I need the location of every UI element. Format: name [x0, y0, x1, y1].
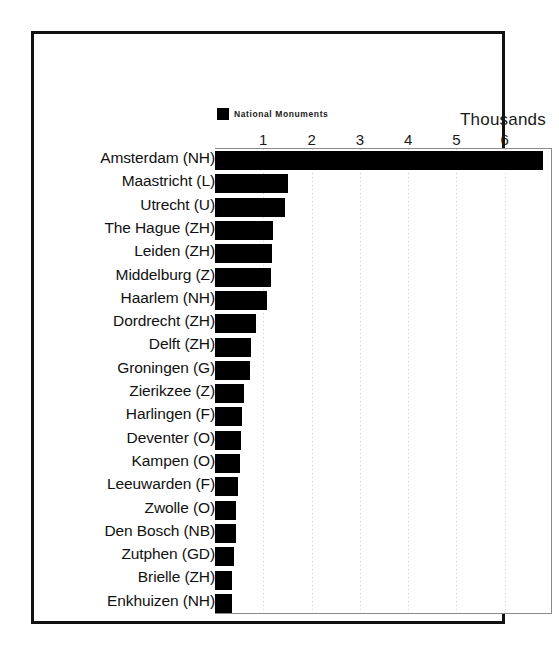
category-label: Zierikzee (Z): [67, 383, 215, 399]
category-label: Zwolle (O): [67, 500, 215, 516]
category-label: Amsterdam (NH): [67, 150, 215, 166]
category-label: Delft (ZH): [67, 336, 215, 352]
category-label: Haarlem (NH): [67, 290, 215, 306]
bar: [215, 198, 285, 217]
bar: [215, 151, 543, 170]
x-axis-tick-labels: 123456: [215, 131, 552, 148]
x-tick-5: 5: [452, 131, 460, 148]
bar: [215, 291, 267, 310]
category-label: Harlingen (F): [67, 406, 215, 422]
bar: [215, 477, 238, 496]
axis-unit-caption: Thousands: [460, 110, 546, 130]
legend-swatch-icon: [217, 108, 229, 120]
category-label: Zutphen (GD): [67, 546, 215, 562]
x-tick-6: 6: [501, 131, 509, 148]
bar: [215, 454, 240, 473]
category-label: Enkhuizen (NH): [67, 593, 215, 609]
category-label: Groningen (G): [67, 360, 215, 376]
bar: [215, 268, 271, 287]
bar: [215, 594, 232, 613]
bar: [215, 314, 256, 333]
chart-legend: National Monuments: [217, 108, 328, 120]
bar: [215, 431, 241, 450]
figure-frame: National Monuments Thousands 123456 Amst…: [31, 31, 505, 624]
category-label: Brielle (ZH): [67, 569, 215, 585]
bar: [215, 547, 234, 566]
y-axis-category-labels: Amsterdam (NH)Maastricht (L)Utrecht (U)T…: [67, 148, 215, 614]
category-label: Maastricht (L): [67, 173, 215, 189]
x-tick-3: 3: [356, 131, 364, 148]
category-label: Deventer (O): [67, 430, 215, 446]
legend-series-label: National Monuments: [234, 109, 328, 119]
category-label: Middelburg (Z): [67, 267, 215, 283]
bar: [215, 384, 244, 403]
bar-series: [215, 149, 551, 613]
category-label: The Hague (ZH): [67, 220, 215, 236]
category-label: Den Bosch (NB): [67, 523, 215, 539]
bar: [215, 571, 232, 590]
plot-area: [215, 148, 552, 614]
x-tick-4: 4: [404, 131, 412, 148]
bar: [215, 361, 250, 380]
bar: [215, 244, 272, 263]
bar: [215, 174, 288, 193]
category-label: Leeuwarden (F): [67, 476, 215, 492]
bar: [215, 524, 236, 543]
category-label: Utrecht (U): [67, 197, 215, 213]
x-tick-1: 1: [259, 131, 267, 148]
category-label: Kampen (O): [67, 453, 215, 469]
bar: [215, 501, 236, 520]
bar: [215, 407, 242, 426]
bar: [215, 221, 273, 240]
x-tick-2: 2: [307, 131, 315, 148]
bar: [215, 338, 251, 357]
category-label: Leiden (ZH): [67, 243, 215, 259]
category-label: Dordrecht (ZH): [67, 313, 215, 329]
